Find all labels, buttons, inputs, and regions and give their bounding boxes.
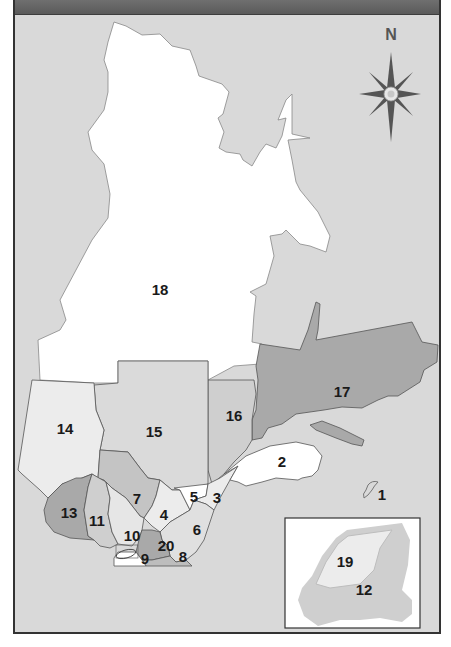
- north-label: N: [385, 26, 397, 43]
- label-9: 9: [141, 550, 149, 567]
- label-8: 8: [179, 548, 187, 565]
- label-18: 18: [152, 281, 169, 298]
- label-3: 3: [213, 489, 221, 506]
- label-2: 2: [278, 453, 286, 470]
- island-anticosti: [310, 421, 364, 446]
- label-7: 7: [133, 490, 141, 507]
- label-13: 13: [61, 504, 78, 521]
- region-17[interactable]: [252, 302, 438, 440]
- label-6: 6: [193, 521, 201, 538]
- region-1-islands[interactable]: [363, 481, 378, 498]
- label-15: 15: [146, 423, 163, 440]
- label-4: 4: [160, 506, 169, 523]
- region-18[interactable]: [38, 22, 330, 383]
- label-20: 20: [158, 537, 175, 554]
- inset-label-12: 12: [356, 581, 373, 598]
- label-16: 16: [226, 407, 243, 424]
- label-11: 11: [89, 512, 105, 529]
- region-map: N 18 17 16 15 14 2 1 5 3 7 13 11 4 6 10 …: [0, 0, 451, 647]
- compass-rose-icon: [359, 52, 421, 142]
- label-10: 10: [124, 527, 141, 544]
- inset-label-19: 19: [337, 553, 354, 570]
- label-14: 14: [57, 420, 74, 437]
- label-5: 5: [190, 488, 198, 505]
- label-1: 1: [378, 486, 386, 503]
- label-17: 17: [334, 383, 351, 400]
